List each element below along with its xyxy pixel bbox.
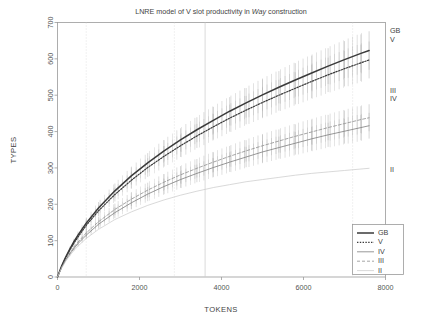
- legend-label-v: V: [378, 237, 383, 246]
- y-tick-label: 200: [46, 198, 55, 210]
- y-axis-ticks: 0100200300400500600700: [46, 17, 57, 280]
- x-tick-label: 6000: [296, 283, 312, 292]
- y-tick-label: 400: [46, 126, 55, 138]
- y-tick-label: 100: [46, 235, 55, 247]
- end-label-ii: II: [390, 165, 394, 174]
- y-tick-label: 500: [46, 89, 55, 101]
- y-tick-label: 0: [46, 275, 55, 279]
- chart-figure: LNRE model of V slot productivity in Way…: [0, 0, 427, 322]
- legend-label-gb: GB: [378, 228, 389, 237]
- legend-label-iv: IV: [378, 247, 385, 256]
- x-axis-ticks: 02000400060008000: [56, 277, 394, 292]
- x-axis-label: TOKENS: [204, 305, 238, 314]
- error-bars: [70, 31, 369, 256]
- x-tick-label: 4000: [214, 283, 230, 292]
- legend-label-ii: II: [378, 266, 382, 275]
- curve-iii: [58, 118, 370, 277]
- chart-legend[interactable]: GBVIVIIIII: [353, 225, 404, 275]
- lnre-line-chart: LNRE model of V slot productivity in Way…: [0, 0, 427, 322]
- chart-title: LNRE model of V slot productivity in Way…: [135, 7, 307, 16]
- end-label-iv: IV: [390, 94, 397, 103]
- y-tick-label: 700: [46, 17, 55, 29]
- legend-label-iii: III: [378, 256, 384, 265]
- end-label-v: V: [390, 35, 395, 44]
- x-tick-label: 8000: [378, 283, 394, 292]
- y-tick-label: 300: [46, 162, 55, 174]
- plot-frame: [58, 23, 386, 278]
- y-tick-label: 600: [46, 53, 55, 65]
- x-tick-label: 0: [56, 283, 60, 292]
- end-label-gb: GB: [390, 26, 401, 35]
- x-tick-label: 2000: [132, 283, 148, 292]
- vertical-reference-lines: [86, 23, 353, 278]
- y-axis-label: TYPES: [9, 137, 18, 164]
- curve-ii: [58, 168, 370, 277]
- curve-end-labels: GBVIIIIVII: [390, 26, 401, 174]
